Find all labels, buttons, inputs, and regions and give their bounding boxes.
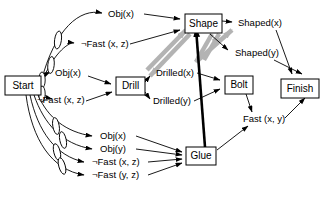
persistence-marker-icon <box>57 157 68 175</box>
diagram-canvas: Start Drill Shape Bolt Glue Finish Obj(x… <box>0 0 324 198</box>
literal-obj-y-bot: Obj(y) <box>100 143 126 154</box>
persistence-marker-icon <box>51 117 60 135</box>
literal-drilled-y: Drilled(y) <box>153 95 191 106</box>
edge-obj-x-top-to-shape <box>144 14 180 19</box>
node-bolt[interactable]: Bolt <box>225 76 253 94</box>
literal-shaped-x: Shaped(x) <box>238 17 282 28</box>
node-drill-label: Drill <box>122 80 139 91</box>
node-finish-label: Finish <box>287 83 314 94</box>
edge-start-to-nfast-yz-bot <box>26 95 84 175</box>
literal-nfast-xz-mid: ¬Fast (x, z) <box>37 94 85 105</box>
literal-obj-x-bot: Obj(x) <box>100 130 126 141</box>
edge-drill-to-shape-mutex <box>147 30 186 70</box>
edge-obj-x-mid-to-drill <box>88 76 111 84</box>
node-finish[interactable]: Finish <box>281 79 319 98</box>
literal-obj-x-top: Obj(x) <box>108 8 134 19</box>
literal-nfast-xz-up: ¬Fast (x, z) <box>81 38 129 49</box>
node-glue[interactable]: Glue <box>186 147 216 165</box>
edge-drill-to-drilled-y <box>145 92 150 99</box>
literal-nfast-yz-bot: ¬Fast (y, z) <box>92 169 139 180</box>
persistence-marker-icon <box>58 131 68 149</box>
literal-shaped-y: Shaped(y) <box>235 47 279 58</box>
edge-fast-xy-to-finish <box>285 98 305 118</box>
node-glue-label: Glue <box>190 150 212 161</box>
edge-nfast-yz-bot-to-glue <box>148 163 182 175</box>
literal-fast-xy: Fast (x, y) <box>243 113 285 124</box>
node-shape[interactable]: Shape <box>185 14 222 33</box>
persistence-marker-icon <box>53 31 62 50</box>
edge-nfast-xz-bot-to-glue <box>148 159 182 162</box>
edge-bolt-to-fast-xy <box>246 94 252 112</box>
literal-drilled-x: Drilled(x) <box>156 67 194 78</box>
node-drill[interactable]: Drill <box>116 77 145 95</box>
edge-drilled-y-to-bolt <box>194 89 220 101</box>
node-start[interactable]: Start <box>5 76 41 95</box>
literal-nfast-xz-bot: ¬Fast (x, z) <box>92 156 140 167</box>
literal-obj-x-mid: Obj(x) <box>55 67 81 78</box>
node-bolt-label: Bolt <box>230 79 247 90</box>
planning-graph-diagram: Start Drill Shape Bolt Glue Finish Obj(x… <box>0 0 324 198</box>
node-shape-label: Shape <box>189 18 218 29</box>
edge-mutex-lower-diagonal <box>196 30 232 62</box>
edge-nfast-xz-mid-to-drill <box>86 92 112 101</box>
edge-drill-to-drilled-x <box>145 76 150 82</box>
node-start-label: Start <box>12 80 33 91</box>
edge-shape-to-shaped-x <box>222 21 232 22</box>
edge-glue-to-fast-xy <box>217 126 248 150</box>
